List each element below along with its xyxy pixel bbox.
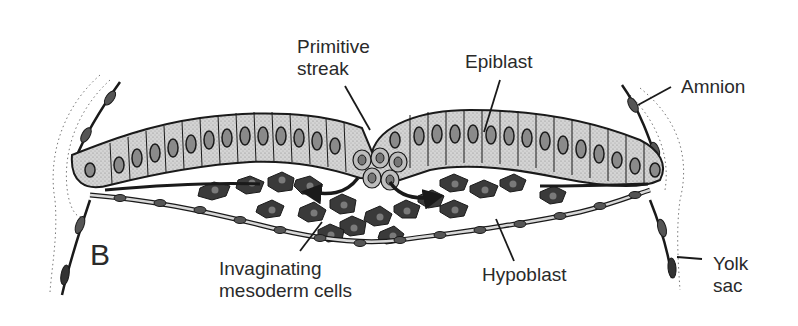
- yolk-sac-right: [650, 200, 677, 278]
- label-mesoderm-line2: mesoderm cells: [219, 280, 352, 302]
- label-yolk-sac: Yolk sac: [713, 253, 748, 297]
- yolk-sac-left: [59, 200, 90, 295]
- leader-yolk-sac: [677, 257, 702, 259]
- label-sac-line2: sac: [713, 275, 748, 297]
- epiblast-layer: [72, 110, 663, 190]
- label-primitive-streak: Primitive streak: [297, 36, 370, 80]
- leader-amnion: [638, 87, 671, 105]
- label-epiblast: Epiblast: [465, 51, 533, 73]
- label-primitive-streak-line1: Primitive: [297, 36, 370, 58]
- right-dotted-membrane: [630, 88, 684, 290]
- label-invaginating-line1: Invaginating: [219, 258, 352, 280]
- label-amnion: Amnion: [681, 76, 745, 98]
- label-invaginating-mesoderm: Invaginating mesoderm cells: [219, 258, 352, 302]
- label-yolk-line1: Yolk: [713, 253, 748, 275]
- label-hypoblast: Hypoblast: [482, 264, 567, 286]
- panel-letter: B: [90, 238, 110, 272]
- embryo-diagram: Primitive streak Epiblast Amnion Invagin…: [0, 0, 798, 326]
- diagram-drawing: [0, 0, 798, 326]
- label-primitive-streak-line2: streak: [297, 58, 370, 80]
